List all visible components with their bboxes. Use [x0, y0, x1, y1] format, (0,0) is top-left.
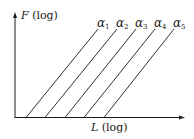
alpha-label-3: α3	[135, 16, 148, 31]
alpha-label-4: α4	[154, 16, 167, 31]
alpha-line-1	[26, 29, 98, 118]
x-axis-arrow-icon	[179, 116, 185, 120]
alpha-label-1: α1	[97, 16, 110, 31]
alpha-lines	[26, 29, 174, 118]
alpha-labels: α1α2α3α4α5	[97, 16, 186, 31]
x-axis-label: L (log)	[90, 121, 128, 134]
y-axis-arrow-icon	[13, 12, 17, 18]
alpha-line-3	[65, 29, 136, 118]
log-log-diagram: α1α2α3α4α5 F (log) L (log)	[0, 0, 194, 139]
alpha-label-5: α5	[173, 16, 186, 31]
alpha-line-4	[84, 29, 155, 118]
alpha-line-5	[104, 29, 174, 118]
y-axis-label: F (log)	[20, 9, 58, 22]
alpha-label-2: α2	[116, 16, 129, 31]
alpha-line-2	[45, 29, 117, 118]
